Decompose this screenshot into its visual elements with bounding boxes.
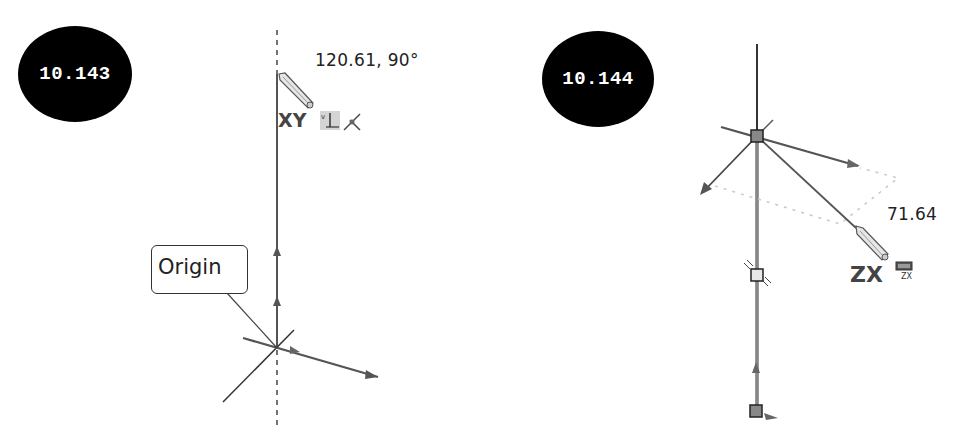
plane-preview-outline: [715, 168, 898, 224]
length-readout: 71.64: [887, 204, 937, 224]
arrow-right-icon: [764, 413, 778, 420]
arrow-right-icon: [365, 370, 378, 379]
arrow-right-icon: [847, 159, 860, 168]
vertical-relation-icon: v: [320, 111, 340, 130]
zx-plane-icon-label: ZX: [901, 272, 912, 281]
x-axis-arrow: [243, 338, 378, 377]
endpoint-bottom[interactable]: [750, 405, 762, 417]
x-axis-arrow: [721, 127, 858, 166]
arrow-up-icon: [273, 296, 281, 306]
coincident-point-icon: [344, 114, 360, 130]
sketch-line-diagonal[interactable]: [757, 136, 856, 228]
arrow-up-icon: [273, 246, 281, 256]
arrow-icon: [290, 346, 300, 354]
figure-10-143: 10.143 v: [0, 0, 480, 447]
pencil-cursor-icon: [279, 73, 313, 108]
z-axis-line: [223, 330, 294, 402]
svg-text:v: v: [321, 113, 325, 121]
zx-plane-icon: [896, 262, 912, 270]
endpoint-top[interactable]: [751, 130, 763, 142]
origin-callout: Origin: [151, 245, 248, 294]
length-angle-readout: 120.61, 90°: [315, 50, 419, 70]
figure-10-144: 10.144: [480, 0, 962, 447]
plane-label-zx: ZX: [850, 262, 883, 287]
plane-label-xy: XY: [278, 109, 306, 131]
pencil-cursor-icon: [856, 226, 888, 260]
z-axis-arrow: [703, 136, 757, 192]
